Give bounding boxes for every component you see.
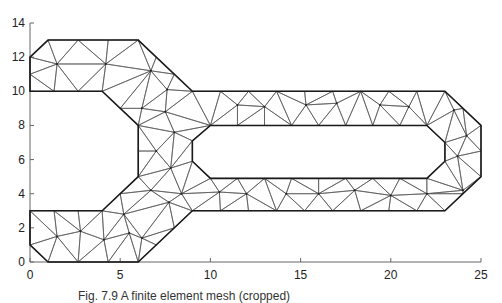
mesh-element (305, 194, 333, 211)
mesh-node (164, 111, 166, 113)
mesh-element (346, 178, 373, 190)
mesh-node (457, 155, 459, 157)
mesh-element (57, 40, 106, 64)
mesh-element (78, 231, 104, 262)
y-tick-label: 6 (18, 153, 25, 167)
x-tick-label: 0 (27, 268, 34, 282)
y-tick-label: 2 (18, 221, 25, 235)
mesh-node (141, 107, 143, 109)
mesh-element (174, 125, 210, 140)
mesh-element (445, 110, 467, 142)
x-tick-label: 20 (384, 268, 398, 282)
y-tick-label: 12 (12, 50, 26, 64)
mesh-node (150, 189, 152, 191)
mesh-node (305, 104, 307, 106)
mesh-node (173, 131, 175, 133)
mesh-element (182, 192, 220, 211)
mesh-node (80, 230, 82, 232)
mesh-element (151, 71, 174, 90)
mesh-element (391, 194, 427, 211)
mesh-element (54, 64, 78, 91)
mesh-node (166, 89, 168, 91)
mesh-node (379, 104, 381, 106)
mesh-element (286, 194, 318, 211)
mesh-node (408, 106, 410, 108)
mesh-element (192, 91, 220, 125)
mesh-element (124, 190, 169, 214)
x-tick-label: 5 (117, 268, 124, 282)
mesh-node (336, 102, 338, 104)
mesh-node (103, 239, 105, 241)
mesh-node (218, 191, 220, 193)
mesh-element (337, 91, 361, 125)
mesh-element (306, 103, 337, 125)
mesh-element (54, 211, 80, 237)
mesh-node (181, 193, 183, 195)
mesh-element (458, 156, 481, 190)
hole-boundary (192, 125, 445, 178)
mesh-element (246, 178, 276, 210)
mesh-node (426, 193, 428, 195)
mesh-node (285, 193, 287, 195)
mesh-element (48, 40, 78, 64)
mesh-node (123, 213, 125, 215)
mesh-element (458, 151, 481, 177)
mesh-element (427, 161, 463, 190)
mesh-element (306, 91, 337, 105)
mesh-element (210, 178, 237, 192)
mesh-node (105, 63, 107, 65)
mesh-element (380, 91, 409, 106)
mesh-element (277, 91, 306, 125)
mesh-element (171, 161, 193, 193)
mesh-element (102, 71, 151, 109)
mesh-element (30, 211, 57, 237)
mesh-element (417, 194, 445, 211)
mesh-element (333, 190, 361, 210)
domain-boundary (30, 40, 481, 262)
mesh-element (182, 178, 220, 193)
mesh-element (400, 107, 427, 126)
mesh-node (318, 193, 320, 195)
mesh-element (409, 91, 427, 125)
mesh-element (104, 233, 129, 262)
mesh-element (30, 64, 57, 91)
mesh-node (390, 194, 392, 196)
mesh-element (265, 178, 292, 193)
mesh-element (219, 178, 246, 193)
mesh-element (417, 91, 445, 125)
mesh-element (138, 168, 170, 190)
mesh-element (427, 178, 463, 193)
mesh-element (391, 178, 427, 195)
mesh-element (30, 211, 57, 245)
mesh-node (453, 109, 455, 111)
mesh-node (462, 189, 464, 191)
mesh-element (361, 91, 380, 125)
mesh-node (245, 193, 247, 195)
mesh-element (355, 178, 391, 195)
mesh-element (30, 57, 57, 74)
mesh-element (57, 231, 80, 262)
mesh-element (165, 90, 192, 112)
mesh-element (151, 190, 182, 202)
mesh-element (78, 240, 108, 262)
mesh-node (141, 237, 143, 239)
figure-caption: Fig. 7.9 A finite element mesh (cropped) (78, 289, 290, 303)
y-tick-label: 14 (12, 16, 26, 30)
mesh-element (237, 91, 264, 106)
mesh-element (124, 202, 169, 238)
mesh-element (373, 105, 400, 125)
mesh-element (120, 190, 151, 214)
mesh-node (56, 235, 58, 237)
mesh-element (124, 214, 142, 238)
mesh-element (156, 132, 174, 168)
mesh-node (56, 63, 58, 65)
outer-boundary (30, 40, 481, 262)
mesh-element (138, 151, 170, 177)
mesh-element (237, 178, 264, 193)
y-tick-label: 10 (12, 84, 26, 98)
mesh-element (142, 71, 167, 109)
y-tick-label: 8 (18, 118, 25, 132)
mesh-element (319, 103, 346, 125)
mesh-element (237, 105, 264, 125)
mesh-element (104, 214, 129, 240)
